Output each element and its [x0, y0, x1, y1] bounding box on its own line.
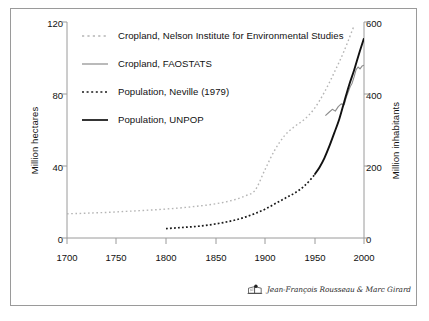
series-line-2: [166, 175, 315, 229]
series-line-1: [325, 65, 364, 115]
series-line-0: [67, 26, 354, 214]
series-layer: [67, 26, 364, 229]
chart-plot-area: [0, 0, 429, 321]
chart-figure: Million hectares Million inhabitants 120…: [0, 0, 429, 321]
